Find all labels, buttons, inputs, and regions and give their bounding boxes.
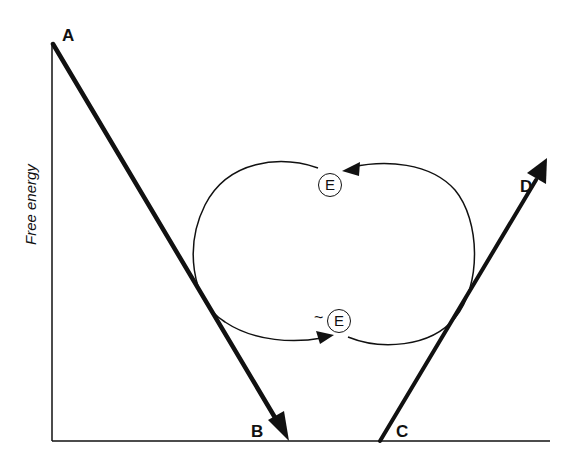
y-axis-label: Free energy	[22, 164, 39, 245]
label-a: A	[62, 27, 74, 44]
enzyme-ground-state: E	[318, 173, 342, 197]
arrowhead-loop-left-icon	[316, 331, 334, 344]
arrow-a-to-b	[53, 44, 289, 441]
arrow-c-to-d	[380, 158, 547, 441]
coupled-reaction-diagram	[0, 0, 584, 459]
enzyme-activated-state: E	[327, 309, 351, 333]
arrowhead-loop-right-icon	[342, 162, 360, 176]
label-c: C	[396, 423, 408, 440]
high-energy-tilde: ~	[314, 309, 323, 327]
label-b: B	[251, 423, 263, 440]
label-d: D	[520, 178, 532, 195]
